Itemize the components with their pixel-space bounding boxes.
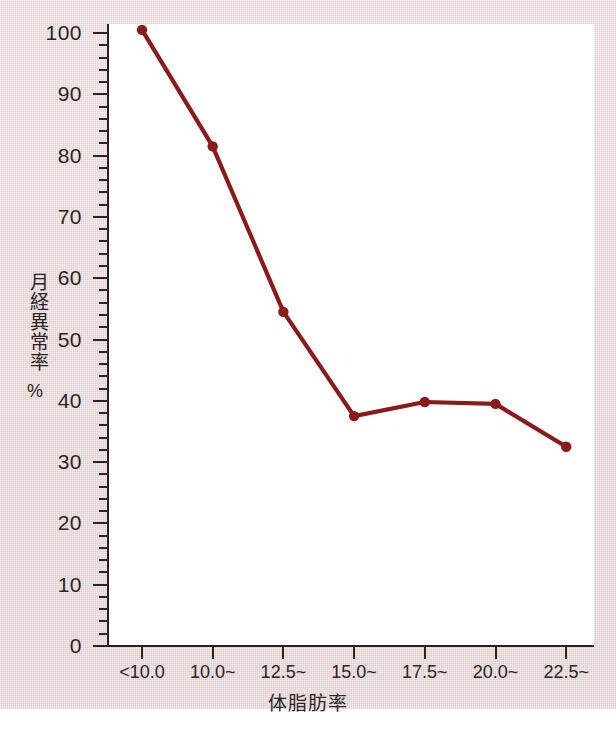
data-point-marker bbox=[137, 25, 147, 35]
data-point-marker bbox=[490, 399, 500, 409]
series-line bbox=[142, 30, 566, 447]
data-point-marker bbox=[349, 411, 359, 421]
data-point-marker bbox=[278, 307, 288, 317]
data-point-marker bbox=[561, 442, 571, 452]
data-point-marker bbox=[420, 397, 430, 407]
figure-page: 0102030405060708090100 <10.010.0~12.5~15… bbox=[0, 0, 616, 739]
series-plot bbox=[0, 0, 616, 739]
data-point-marker bbox=[208, 141, 218, 151]
